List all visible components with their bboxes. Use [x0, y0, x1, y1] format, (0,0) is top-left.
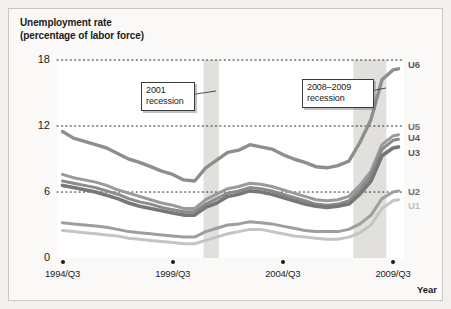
- x-tick-label-1999/Q3: 1999/Q3: [142, 268, 204, 279]
- x-tick-marker: [281, 260, 285, 264]
- series-label-U4: U4: [408, 132, 420, 143]
- annotation-2008-line-1: 2008–2009: [307, 82, 369, 93]
- annotation-2008-line-2: recession: [307, 93, 369, 104]
- series-line-U3: [63, 147, 399, 215]
- series-line-U1: [63, 200, 399, 244]
- x-tick-marker: [61, 260, 65, 264]
- y-tick-label-12: 12: [22, 119, 50, 131]
- x-tick-marker: [391, 260, 395, 264]
- series-label-U3: U3: [408, 147, 420, 158]
- x-axis-label: Year: [417, 284, 437, 295]
- series-label-U1: U1: [408, 200, 420, 211]
- x-tick-label-1994/Q3: 1994/Q3: [32, 268, 94, 279]
- annotation-2001-recession: 2001 recession: [141, 82, 195, 111]
- series-label-U6: U6: [408, 59, 420, 70]
- annotation-2008-2009-recession: 2008–2009 recession: [302, 79, 374, 108]
- chart-canvas: [0, 0, 451, 309]
- x-tick-label-2009/Q3: 2009/Q3: [362, 268, 424, 279]
- y-tick-label-0: 0: [22, 251, 50, 263]
- chart-figure: Unemployment rate (percentage of labor f…: [0, 0, 451, 309]
- y-tick-label-6: 6: [22, 185, 50, 197]
- y-tick-label-18: 18: [22, 53, 50, 65]
- series-label-U5: U5: [408, 121, 420, 132]
- x-tick-label-2004/Q3: 2004/Q3: [252, 268, 314, 279]
- x-tick-marker: [171, 260, 175, 264]
- annotation-2001-line-2: recession: [146, 96, 190, 107]
- annotation-2001-line-1: 2001: [146, 85, 190, 96]
- series-label-U2: U2: [408, 186, 420, 197]
